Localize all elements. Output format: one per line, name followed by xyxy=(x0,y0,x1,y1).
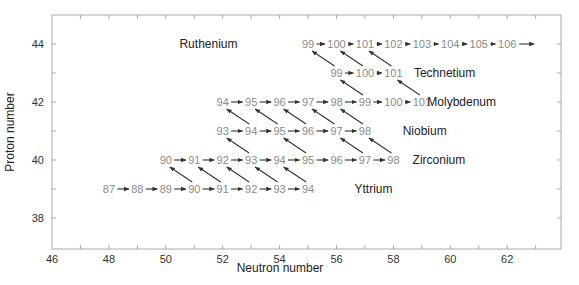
nuclide-ruthenium-99: 99 xyxy=(302,38,314,50)
beta-decay-arrow xyxy=(284,138,306,153)
nuclide-ruthenium-105: 105 xyxy=(470,38,488,50)
nuclide-technetium-101: 101 xyxy=(384,67,402,79)
beta-decay-arrow xyxy=(284,109,306,124)
element-label-niobium: Niobium xyxy=(403,124,447,138)
nuclide-molybdenum-94: 94 xyxy=(217,96,229,108)
nuclide-zirconium-93: 93 xyxy=(245,154,257,166)
x-tick-label: 50 xyxy=(160,253,172,265)
nuclide-niobium-97: 97 xyxy=(330,125,342,137)
beta-decay-arrow xyxy=(369,51,391,66)
y-axis-title: Proton number xyxy=(3,92,17,171)
y-tick-label: 42 xyxy=(32,96,44,108)
nuclide-yttrium-89: 89 xyxy=(160,183,172,195)
nuclide-ruthenium-103: 103 xyxy=(413,38,431,50)
nuclide-niobium-98: 98 xyxy=(359,125,371,137)
x-axis-title: Neutron number xyxy=(237,261,324,275)
element-label-molybdenum: Molybdenum xyxy=(427,95,496,109)
beta-decay-arrow xyxy=(312,109,334,124)
y-tick-label: 44 xyxy=(32,38,44,50)
nuclide-yttrium-91: 91 xyxy=(217,183,229,195)
beta-decay-arrow xyxy=(227,167,249,182)
beta-decay-arrow xyxy=(227,109,249,124)
x-tick-label: 58 xyxy=(387,253,399,265)
x-tick-label: 48 xyxy=(103,253,115,265)
nuclide-yttrium-92: 92 xyxy=(245,183,257,195)
element-label-technetium: Technetium xyxy=(414,66,475,80)
nuclide-yttrium-94: 94 xyxy=(302,183,314,195)
nuclide-molybdenum-98: 98 xyxy=(330,96,342,108)
x-tick-label: 56 xyxy=(330,253,342,265)
nuclide-molybdenum-100: 100 xyxy=(384,96,402,108)
x-tick-label: 62 xyxy=(501,253,513,265)
nuclide-yttrium-90: 90 xyxy=(188,183,200,195)
nuclide-molybdenum-96: 96 xyxy=(273,96,285,108)
x-tick-label: 46 xyxy=(46,253,58,265)
nuclide-molybdenum-99: 99 xyxy=(359,96,371,108)
nuclide-zirconium-90: 90 xyxy=(160,154,172,166)
beta-decay-arrow xyxy=(227,138,249,153)
nuclide-chart: 464850525456586062 38404244 Neutron numb… xyxy=(0,0,579,285)
beta-decay-arrow xyxy=(198,167,220,182)
nuclide-technetium-99: 99 xyxy=(330,67,342,79)
x-axis-ticks: 464850525456586062 xyxy=(46,15,536,265)
nuclide-niobium-93: 93 xyxy=(217,125,229,137)
nuclide-yttrium-93: 93 xyxy=(273,183,285,195)
nuclide-yttrium-88: 88 xyxy=(131,183,143,195)
beta-decay-arrow xyxy=(255,167,277,182)
element-label-yttrium: Yttrium xyxy=(354,182,392,196)
nuclide-ruthenium-106: 106 xyxy=(498,38,516,50)
beta-decay-arrow xyxy=(341,51,363,66)
nuclide-zirconium-98: 98 xyxy=(387,154,399,166)
nuclide-ruthenium-101: 101 xyxy=(356,38,374,50)
beta-decay-arrow xyxy=(341,80,363,95)
beta-decay-arrow xyxy=(312,51,334,66)
nuclide-zirconium-97: 97 xyxy=(359,154,371,166)
nuclide-molybdenum-95: 95 xyxy=(245,96,257,108)
beta-decay-arrow xyxy=(341,109,363,124)
nuclide-zirconium-94: 94 xyxy=(273,154,285,166)
nuclide-niobium-94: 94 xyxy=(245,125,257,137)
element-labels: YttriumZirconiumNiobiumMolybdenumTechnet… xyxy=(179,37,496,196)
beta-decay-arrow xyxy=(284,167,306,182)
nuclide-yttrium-87: 87 xyxy=(103,183,115,195)
beta-decay-arrow xyxy=(341,138,363,153)
nuclide-zirconium-92: 92 xyxy=(217,154,229,166)
nuclide-labels: 8788899091929394909192939495969798939495… xyxy=(103,38,517,195)
y-tick-label: 40 xyxy=(32,154,44,166)
element-label-ruthenium: Ruthenium xyxy=(179,37,237,51)
y-tick-label: 38 xyxy=(32,212,44,224)
nuclide-zirconium-95: 95 xyxy=(302,154,314,166)
beta-decay-arrow xyxy=(170,167,192,182)
nuclide-ruthenium-104: 104 xyxy=(441,38,459,50)
beta-decay-arrow xyxy=(255,109,277,124)
element-label-zirconium: Zirconium xyxy=(413,153,466,167)
nuclide-molybdenum-97: 97 xyxy=(302,96,314,108)
beta-decay-arrow xyxy=(369,138,391,153)
nuclide-technetium-100: 100 xyxy=(356,67,374,79)
x-tick-label: 52 xyxy=(217,253,229,265)
beta-decay-arrow xyxy=(397,80,419,95)
nuclide-ruthenium-100: 100 xyxy=(327,38,345,50)
nuclide-ruthenium-102: 102 xyxy=(384,38,402,50)
nuclide-niobium-96: 96 xyxy=(302,125,314,137)
nuclide-niobium-95: 95 xyxy=(273,125,285,137)
nuclide-zirconium-96: 96 xyxy=(330,154,342,166)
nuclide-zirconium-91: 91 xyxy=(188,154,200,166)
x-tick-label: 60 xyxy=(444,253,456,265)
